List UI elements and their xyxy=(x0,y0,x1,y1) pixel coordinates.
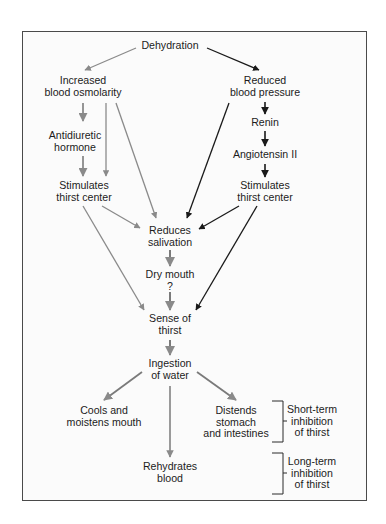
node-dehydration: Dehydration xyxy=(141,40,198,52)
node-antidiuretic-hormone: Antidiuretic hormone xyxy=(49,130,101,153)
arrow-dehydration-pressure xyxy=(207,48,259,70)
arrow-ingestion-cools xyxy=(104,372,142,400)
arrow-thirstcenterR-salivation xyxy=(199,206,239,229)
arrow-thirstcenterL-salivation xyxy=(102,206,140,228)
bracket-short-term xyxy=(272,401,287,442)
node-long-term-inhibition: Long-term inhibition of thirst xyxy=(288,456,336,491)
node-sense-of-thirst: Sense of thirst xyxy=(149,313,191,336)
node-stimulates-thirst-center-left: Stimulates thirst center xyxy=(56,180,111,203)
node-reduces-salivation: Reduces salivation xyxy=(148,225,192,248)
arrow-dehydration-osmolarity xyxy=(85,48,136,70)
node-renin: Renin xyxy=(251,117,279,129)
node-increased-blood-osmolarity: Increased blood osmolarity xyxy=(44,75,121,98)
arrow-thirstcenterL-sense xyxy=(83,206,144,310)
node-ingestion-of-water: Ingestion of water xyxy=(149,358,192,381)
node-reduced-blood-pressure: Reduced blood pressure xyxy=(230,75,300,98)
node-angiotensin-ii: Angiotensin II xyxy=(233,149,297,161)
arrow-ingestion-distends xyxy=(197,372,236,400)
node-rehydrates-blood: Rehydrates blood xyxy=(143,461,197,484)
arrow-pressure-salivation xyxy=(187,103,229,218)
node-dry-mouth: Dry mouth ? xyxy=(146,269,195,292)
node-stimulates-thirst-center-right: Stimulates thirst center xyxy=(237,180,292,203)
node-short-term-inhibition: Short-term inhibition of thirst xyxy=(287,404,337,439)
bracket-long-term xyxy=(272,453,287,494)
node-cools-and-moistens-mouth: Cools and moistens mouth xyxy=(67,405,142,428)
arrow-osmolarity-salivation xyxy=(116,103,156,218)
node-distends-stomach-intestines: Distends stomach and intestines xyxy=(203,405,268,440)
arrow-thirstcenterR-sense xyxy=(196,206,257,310)
